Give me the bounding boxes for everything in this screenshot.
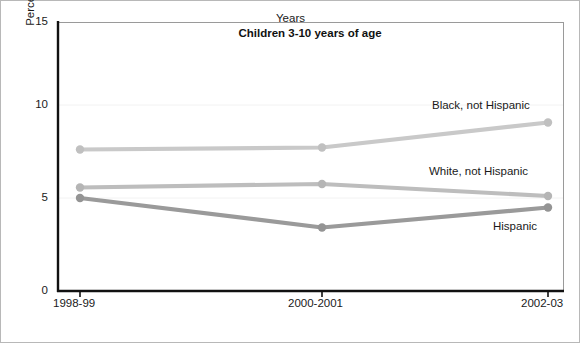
data-point-hispanic-2000-2001 <box>318 223 326 231</box>
data-point-hispanic-1998-99 <box>76 194 84 202</box>
series-label-white-not-hispanic: White, not Hispanic <box>429 165 528 177</box>
data-point-white-2000-2001 <box>318 180 326 188</box>
data-point-black-2002-03 <box>544 118 552 126</box>
series-line-hispanic <box>80 198 548 228</box>
series-label-black-not-hispanic: Black, not Hispanic <box>432 99 530 111</box>
y-tick-label-15: 15 <box>8 15 48 27</box>
series-hispanic <box>76 194 552 232</box>
chart-title: Children 3-10 years of age <box>57 27 563 39</box>
y-tick-label-0: 0 <box>8 284 48 296</box>
x-tick-label-1998-99: 1998-99 <box>53 297 95 309</box>
y-tick-label-5: 5 <box>8 191 48 203</box>
x-tick-label-2002-03: 2002-03 <box>521 297 563 309</box>
y-tick-label-10: 10 <box>8 98 48 110</box>
series-black-not-hispanic <box>76 118 552 153</box>
data-point-white-1998-99 <box>76 183 84 191</box>
chart-figure: Children 3-10 years of age Percent Years… <box>0 0 581 344</box>
data-point-hispanic-2002-03 <box>544 203 552 211</box>
series-label-hispanic: Hispanic <box>493 220 537 232</box>
data-point-black-1998-99 <box>76 145 84 153</box>
series-line-white <box>80 184 548 196</box>
x-tick-label-2000-2001: 2000-2001 <box>288 297 343 309</box>
series-line-black <box>80 123 548 150</box>
data-point-white-2002-03 <box>544 192 552 200</box>
data-point-black-2000-2001 <box>318 143 326 151</box>
series-white-not-hispanic <box>76 180 552 200</box>
plot-area-frame <box>58 23 564 292</box>
